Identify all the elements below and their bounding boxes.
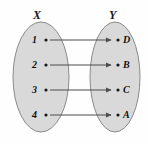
node-label-x-2: 2 — [32, 60, 37, 70]
node-label-x-4: 4 — [32, 110, 37, 120]
set-x-label: X — [33, 9, 41, 21]
node-dot-y-A — [116, 113, 119, 116]
mapping-diagram: X Y 1 2 3 4 D B C A — [0, 0, 148, 144]
node-dot-x-4 — [44, 113, 47, 116]
diagram-canvas — [0, 0, 148, 144]
node-label-x-3: 3 — [32, 85, 37, 95]
node-dot-x-3 — [44, 88, 47, 91]
set-y-label: Y — [109, 9, 116, 21]
node-label-y-C: C — [123, 85, 130, 95]
node-label-y-A: A — [123, 110, 130, 120]
node-label-y-D: D — [123, 35, 130, 45]
node-dot-x-2 — [44, 63, 47, 66]
node-label-x-1: 1 — [32, 35, 37, 45]
node-dot-y-C — [116, 88, 119, 91]
node-dot-y-B — [116, 63, 119, 66]
node-label-y-B: B — [123, 60, 130, 70]
node-dot-y-D — [116, 38, 119, 41]
node-dot-x-1 — [44, 38, 47, 41]
